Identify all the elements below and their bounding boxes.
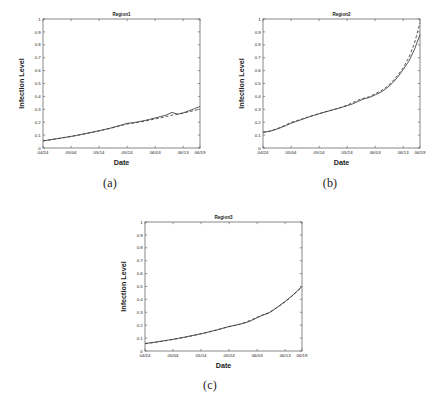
x-axis-tick-label: 04/24 [38, 150, 50, 155]
y-axis-tick-label: 0.9 [35, 30, 42, 35]
y-axis-tick-label: 0.7 [35, 55, 42, 60]
x-axis-label: Date [334, 158, 350, 167]
chart-region1: Region100.10.20.30.40.50.60.70.80.9104/2… [0, 0, 220, 175]
x-axis-label: Date [114, 158, 130, 167]
y-axis-label: Infection Level [17, 58, 26, 108]
x-axis-tick-label: 05/04 [168, 353, 180, 358]
y-axis-tick-label: 0.5 [35, 81, 42, 86]
x-axis-tick-label: 05/14 [94, 150, 106, 155]
plot-frame [43, 19, 200, 148]
y-axis-tick-label: 0.2 [35, 120, 42, 125]
series-line-predicted [263, 23, 420, 133]
y-axis-tick-label: 0.9 [255, 30, 262, 35]
x-axis-tick-label: 05/04 [286, 150, 298, 155]
series-line-observed [263, 34, 420, 132]
chart-region3: Region300.10.20.30.40.50.60.70.80.9104/2… [100, 198, 320, 376]
y-axis-tick-label: 0.8 [255, 42, 262, 47]
x-axis-tick-label: 06/13 [398, 150, 410, 155]
y-axis-tick-label: 0.9 [137, 233, 144, 238]
x-axis-tick-label: 06/03 [252, 353, 264, 358]
subfigure-caption-b: (b) [220, 176, 440, 191]
series-line-observed [43, 106, 200, 140]
y-axis-label: Infection Level [119, 261, 128, 311]
y-axis-tick-label: 0.5 [137, 284, 144, 289]
y-axis-tick-label: 0.7 [137, 258, 144, 263]
plot-frame [263, 19, 420, 148]
y-axis-tick-label: 0.3 [255, 107, 262, 112]
x-axis-tick-label: 06/19 [415, 150, 427, 155]
chart-title: Region2 [332, 12, 351, 17]
series-line-predicted [145, 287, 302, 344]
y-axis-tick-label: 0.1 [137, 336, 144, 341]
y-axis-tick-label: 0.2 [255, 120, 262, 125]
y-axis-tick-label: 0.1 [255, 133, 262, 138]
y-axis-tick-label: 1 [140, 220, 143, 225]
chart-region2: Region200.10.20.30.40.50.60.70.80.9104/2… [220, 0, 440, 175]
y-axis-tick-label: 0.8 [35, 42, 42, 47]
y-axis-tick-label: 1 [258, 17, 261, 22]
x-axis-tick-label: 06/03 [150, 150, 162, 155]
y-axis-tick-label: 0.6 [137, 271, 144, 276]
x-axis-tick-label: 05/04 [66, 150, 78, 155]
y-axis-tick-label: 0.2 [137, 323, 144, 328]
x-axis-tick-label: 06/13 [178, 150, 190, 155]
y-axis-tick-label: 0.6 [35, 68, 42, 73]
y-axis-tick-label: 0.5 [255, 81, 262, 86]
y-axis-tick-label: 0.3 [137, 310, 144, 315]
y-axis-tick-label: 0.4 [137, 297, 144, 302]
x-axis-tick-label: 06/19 [297, 353, 309, 358]
subfigure-region1: Region100.10.20.30.40.50.60.70.80.9104/2… [0, 0, 220, 200]
chart-title: Region3 [214, 215, 233, 220]
subfigure-caption-a: (a) [0, 176, 220, 191]
y-axis-tick-label: 1 [38, 17, 41, 22]
x-axis-tick-label: 06/13 [280, 353, 292, 358]
subfigure-region3: Region300.10.20.30.40.50.60.70.80.9104/2… [100, 198, 320, 403]
y-axis-tick-label: 0.7 [255, 55, 262, 60]
x-axis-tick-label: 06/19 [195, 150, 207, 155]
subfigure-region2: Region200.10.20.30.40.50.60.70.80.9104/2… [220, 0, 440, 200]
subfigure-caption-c: (c) [100, 378, 320, 393]
x-axis-tick-label: 05/14 [196, 353, 208, 358]
y-axis-tick-label: 0.6 [255, 68, 262, 73]
y-axis-label: Infection Level [237, 58, 246, 108]
y-axis-tick-label: 0.1 [35, 133, 42, 138]
plot-frame [145, 222, 302, 351]
chart-title: Region1 [112, 12, 131, 17]
x-axis-tick-label: 04/24 [258, 150, 270, 155]
y-axis-tick-label: 0.4 [255, 94, 262, 99]
y-axis-tick-label: 0.8 [137, 245, 144, 250]
y-axis-tick-label: 0.4 [35, 94, 42, 99]
x-axis-tick-label: 05/24 [342, 150, 354, 155]
x-axis-tick-label: 05/24 [224, 353, 236, 358]
y-axis-tick-label: 0.3 [35, 107, 42, 112]
x-axis-label: Date [216, 361, 232, 370]
x-axis-tick-label: 05/24 [122, 150, 134, 155]
x-axis-tick-label: 05/14 [314, 150, 326, 155]
x-axis-tick-label: 04/24 [140, 353, 152, 358]
series-line-observed [145, 286, 302, 343]
x-axis-tick-label: 06/03 [370, 150, 382, 155]
